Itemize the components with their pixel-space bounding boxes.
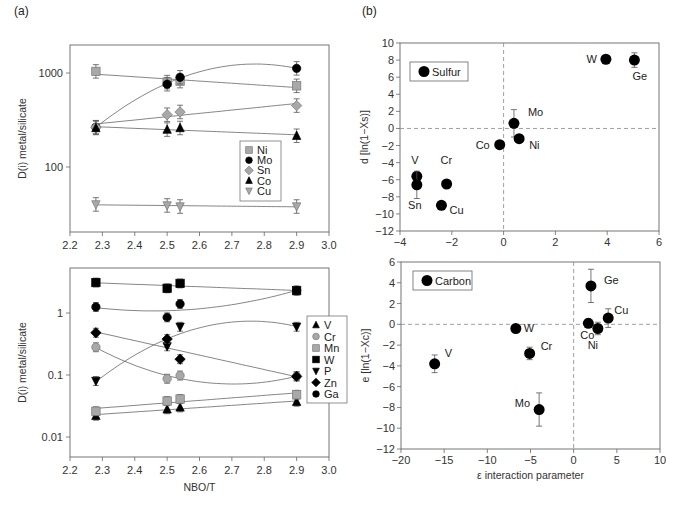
data-point-cu [603,313,614,324]
trend-line-sn [96,104,297,125]
x-tick-label: 2.2 [62,464,77,476]
square-marker-icon [92,67,100,75]
circle-marker-icon [92,303,100,311]
trend-line-v [96,401,297,415]
x-tick-label: 2.6 [192,464,207,476]
data-point-co [583,318,594,329]
circle-marker-icon [176,300,184,308]
y-tick-label: 0.01 [42,431,63,443]
x-tick-label: 2.6 [192,239,207,251]
y-tick-label: 4 [388,88,394,100]
x-tick-label: 2.4 [127,239,142,251]
triangle-down-marker-icon [176,323,184,331]
legend-circle-icon [422,275,433,286]
legend-label: Sulfur [432,66,461,78]
plot-frame [70,45,329,232]
x-tick-label: 2.9 [289,239,304,251]
plot-frame [70,268,329,457]
square-marker-icon [163,397,171,405]
x-tick-label: 2.7 [224,464,239,476]
circle-marker-icon [92,343,100,351]
trend-line-mn [96,393,297,409]
x-tick-label: 2.4 [127,464,142,476]
point-label-cu: Cu [614,304,628,316]
circle-marker-icon [163,80,171,88]
legend-label-v: V [324,319,332,331]
legend: VCrMnWPZnGa [307,316,347,403]
y-tick-label: −12 [376,443,395,455]
point-label-v: V [445,347,453,359]
y-axis-label: e [ln(1−Xc)] [359,328,371,382]
x-tick-label: −2 [446,236,459,248]
triangle-down-marker-icon [92,377,100,385]
diamond-marker-icon [291,371,301,381]
x-tick-label: 0 [501,236,507,248]
chart-b-bottom: −20−15−10−50510−12−10−8−6−4−20246e [ln(1… [359,256,666,481]
y-tick-label: −10 [375,208,394,220]
data-point-co [494,139,505,150]
legend-label-cu: Cu [257,185,271,197]
legend-label: Carbon [435,275,471,287]
trend-line-p [96,321,297,382]
x-tick-label: 6 [656,236,662,248]
square-marker-icon [92,407,100,415]
x-tick-label: 2 [552,236,558,248]
data-point-cu [436,200,447,211]
data-point-cr [441,179,452,190]
point-label-ge: Ge [632,70,647,82]
data-point-sn [411,179,422,190]
x-tick-label: 2.7 [224,239,239,251]
point-label-ni: Ni [588,339,598,351]
y-tick-label: 0 [389,318,395,330]
y-tick-label: −8 [381,191,394,203]
triangle-down-marker-icon [176,203,184,211]
square-marker-icon [92,278,100,286]
legend-label-cr: Cr [324,331,336,343]
point-label-mo: Mo [528,106,543,118]
x-tick-label: 0 [571,454,577,466]
square-marker-icon [292,82,300,90]
legend-label-p: P [324,365,331,377]
x-tick-label: −4 [394,236,407,248]
data-point-mo [534,404,545,415]
legend: Carbon [413,271,472,290]
x-tick-label: 2.8 [257,464,272,476]
x-tick-label: −20 [392,454,411,466]
data-point-cr [524,348,535,359]
x-tick-label: 2.3 [95,239,110,251]
y-tick-label: −2 [382,339,395,351]
legend: NiMoSnCoCu [240,141,281,201]
data-point-ge [585,280,596,291]
point-label-cr: Cr [441,154,453,166]
x-tick-label: 5 [614,454,620,466]
triangle-up-marker-icon [176,403,184,411]
chart-a-bottom: 2.22.32.42.52.62.72.82.93.00.010.11D(i) … [16,268,347,493]
trend-line-co [96,127,297,135]
x-axis-label: NBO/T [183,481,216,493]
data-point-w [600,54,611,65]
diamond-marker-icon [91,328,101,338]
y-tick-label: −6 [381,174,394,186]
panel-label-b: (b) [362,4,377,18]
diamond-marker-icon [175,354,185,364]
circle-marker-icon [176,371,184,379]
circle-marker-icon [292,286,300,294]
y-tick-label: 100 [45,161,63,173]
y-axis-label: d [ln(1−Xs)] [358,110,370,164]
legend-label-ga: Ga [324,388,340,400]
point-label-v: V [411,154,419,166]
figure: (a)(b)2.22.32.42.52.62.72.82.93.01001000… [0,0,681,505]
legend: Sulfur [410,62,468,81]
triangle-up-marker-icon [176,123,184,131]
data-point-ni [592,323,603,334]
circle-marker-icon [292,64,300,72]
y-tick-label: −10 [376,422,395,434]
y-tick-label: −2 [381,140,394,152]
point-label-cu: Cu [449,204,463,216]
x-tick-label: 4 [604,236,610,248]
point-label-w: W [587,53,598,65]
x-tick-label: 2.2 [62,239,77,251]
diamond-marker-icon [162,110,172,120]
y-tick-label: −4 [381,157,394,169]
x-tick-label: −10 [478,454,497,466]
